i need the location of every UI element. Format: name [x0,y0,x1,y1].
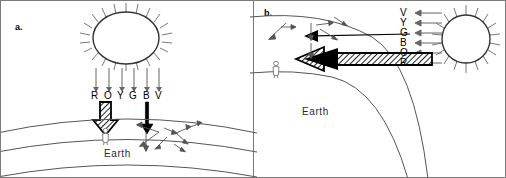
earth-label-a: Earth [104,149,131,159]
atmosphere-boundary [0,119,257,133]
rayleigh-scattering-figure: a. [0,0,506,178]
observer-person [273,61,279,78]
spectrum-letter-r: R [400,58,407,68]
incoming-sunlight-rays [93,68,162,92]
spectrum-letter-r: R [91,91,98,101]
sun-disc [442,15,490,63]
observer-person [103,128,109,145]
sun-disc [93,12,159,64]
panel-b: b. [254,1,506,178]
panel-a: a. [1,1,254,178]
direct-sunlight-arrow [296,47,432,71]
earth-surface-lower [0,165,257,177]
panel-b-graphics [254,1,506,178]
spectrum-letter-v: V [155,91,162,101]
earth-label-b: Earth [302,107,329,117]
earth-surface [250,72,408,178]
spectrum-letter-o: O [104,91,112,101]
spectrum-letter-y: Y [117,91,124,101]
spectrum-letter-g: G [129,91,137,101]
spectrum-letter-b: B [143,91,150,101]
